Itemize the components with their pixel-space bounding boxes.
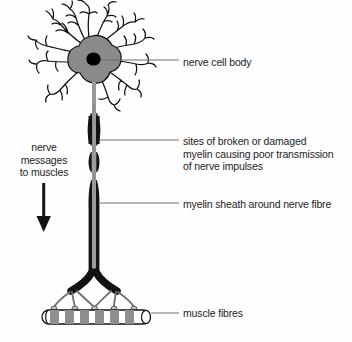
label-myelin-sheath: myelin sheath around nerve fibre	[183, 198, 331, 211]
neuron-diagram: nerve cell body sites of broken or damag…	[0, 0, 352, 342]
muscle-band	[110, 310, 119, 324]
muscle-band	[50, 310, 59, 324]
terminal-branch	[77, 291, 94, 307]
muscle-band	[125, 310, 134, 324]
label-muscle-fibres: muscle fibres	[183, 307, 243, 320]
arrow-head	[37, 216, 51, 232]
muscle-band	[95, 310, 104, 324]
myelin-segment	[96, 180, 99, 274]
myelin-segment	[89, 152, 92, 173]
dendrite-branch	[62, 1, 85, 40]
arrow-shaft	[42, 183, 45, 219]
fork-right-branch	[96, 272, 117, 291]
terminal-branch	[118, 292, 134, 307]
dendrite-branch	[103, 13, 144, 42]
dendrite-branch	[28, 36, 73, 52]
terminal-branch	[114, 292, 116, 307]
leader-lines	[99, 60, 179, 313]
dendrite-branch	[46, 72, 78, 102]
muscle-end-cap-right	[142, 310, 151, 323]
label-damaged-myelin: sites of broken or damaged myelin causin…	[183, 135, 333, 173]
terminal-branch	[54, 292, 70, 307]
myelin-segment	[89, 116, 93, 144]
dendrite-branch	[46, 9, 82, 44]
terminal-branch	[72, 292, 75, 307]
fork-left-branch	[71, 272, 92, 291]
dendrite-branch	[97, 2, 116, 37]
muscle-fibre-bar	[42, 310, 151, 324]
muscle-band	[80, 310, 89, 324]
myelin-segment	[96, 152, 99, 173]
nucleus	[86, 52, 100, 65]
dendrite-branch	[29, 51, 74, 73]
terminal-branch	[95, 291, 111, 307]
axon-terminal-fork	[71, 272, 117, 291]
axon-terminal-branches	[54, 291, 134, 307]
label-nerve-cell-body: nerve cell body	[183, 56, 251, 69]
label-nerve-messages-to-muscles: nerve messages to muscles	[8, 141, 80, 179]
muscle-band	[65, 310, 74, 324]
downward-arrow	[37, 183, 51, 232]
myelin-segment	[89, 180, 92, 274]
